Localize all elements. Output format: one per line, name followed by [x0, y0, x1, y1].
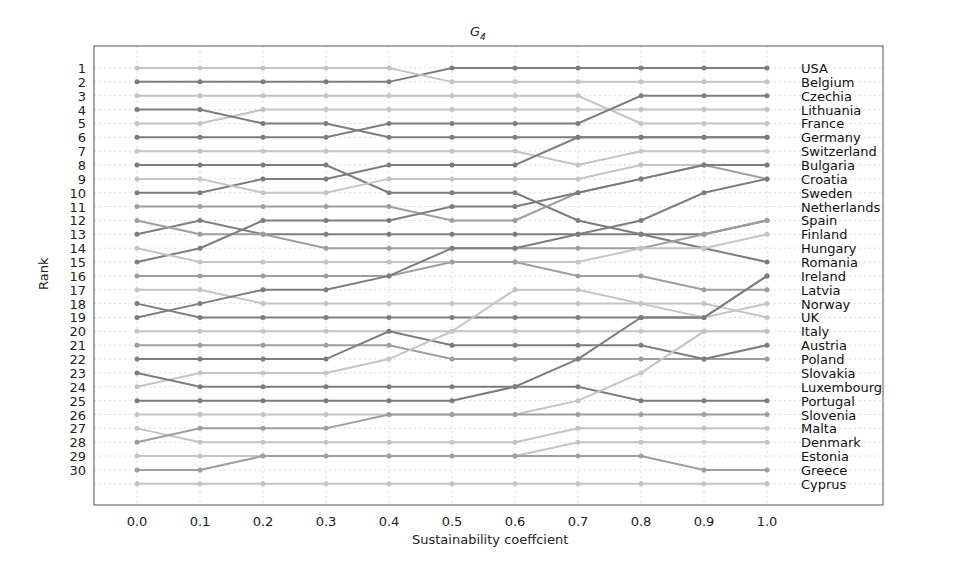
y-tick-label: 19 — [69, 310, 86, 325]
y-tick-label: 28 — [69, 435, 86, 450]
y-tick-label: 1 — [78, 61, 86, 76]
country-label: Poland — [801, 352, 844, 367]
y-tick-label: 27 — [69, 421, 86, 436]
country-label: Slovenia — [801, 408, 856, 423]
country-label: Portugal — [801, 394, 855, 409]
y-tick-label: 26 — [69, 408, 86, 423]
y-tick-label: 22 — [69, 352, 86, 367]
country-label: Lithuania — [801, 103, 861, 118]
y-tick-label: 20 — [69, 324, 86, 339]
country-label: Romania — [801, 255, 858, 270]
y-tick-label: 17 — [69, 283, 86, 298]
x-tick-label: 0.3 — [316, 514, 337, 529]
country-label: Finland — [801, 227, 847, 242]
y-tick-label: 11 — [69, 200, 86, 215]
country-label: Slovakia — [801, 366, 856, 381]
y-tick-label: 23 — [69, 366, 86, 381]
y-tick-label: 10 — [69, 186, 86, 201]
y-tick-label: 7 — [78, 144, 86, 159]
y-tick-label: 13 — [69, 227, 86, 242]
x-tick-label: 0.9 — [694, 514, 715, 529]
country-label: Luxembourg — [801, 380, 882, 395]
y-tick-label: 30 — [69, 463, 86, 478]
x-tick-label: 0.2 — [253, 514, 274, 529]
x-tick-label: 0.7 — [568, 514, 589, 529]
country-label: Czechia — [801, 89, 852, 104]
x-tick-label: 0.6 — [505, 514, 526, 529]
country-label: Estonia — [801, 449, 849, 464]
x-tick-label: 0.5 — [442, 514, 463, 529]
country-label: Spain — [801, 213, 837, 228]
y-tick-label: 25 — [69, 394, 86, 409]
country-label: Cyprus — [801, 477, 847, 492]
y-tick-label: 14 — [69, 241, 86, 256]
y-tick-label: 4 — [78, 103, 86, 118]
y-tick-label: 15 — [69, 255, 86, 270]
country-label: Sweden — [801, 186, 852, 201]
country-label: Germany — [801, 130, 861, 145]
country-label: UK — [801, 310, 820, 325]
country-label: Netherlands — [801, 200, 880, 215]
x-axis-ticks: 0.00.10.20.30.40.50.60.70.80.91.0 — [127, 514, 778, 529]
y-tick-label: 8 — [78, 158, 86, 173]
country-label: Austria — [801, 338, 847, 353]
chart-title: G4 — [470, 24, 486, 42]
y-tick-label: 21 — [69, 338, 86, 353]
series-line — [135, 481, 770, 486]
y-tick-label: 9 — [78, 172, 86, 187]
x-tick-label: 1.0 — [757, 514, 778, 529]
y-tick-label: 29 — [69, 449, 86, 464]
y-tick-label: 2 — [78, 75, 86, 90]
y-tick-label: 5 — [78, 116, 86, 131]
country-label: Hungary — [801, 241, 857, 256]
y-tick-label: 12 — [69, 213, 86, 228]
bump-chart: 1234567891011121314151617181920212223242… — [0, 0, 958, 573]
y-tick-label: 16 — [69, 269, 86, 284]
country-label: Switzerland — [801, 144, 877, 159]
x-tick-label: 0.8 — [631, 514, 652, 529]
country-label: Norway — [801, 297, 851, 312]
country-label: Malta — [801, 421, 837, 436]
country-label: Belgium — [801, 75, 854, 90]
y-tick-label: 18 — [69, 297, 86, 312]
country-label: Greece — [801, 463, 847, 478]
country-label: Latvia — [801, 283, 841, 298]
x-tick-label: 0.4 — [379, 514, 400, 529]
y-axis-label: Rank — [36, 258, 51, 290]
x-tick-label: 0.1 — [190, 514, 211, 529]
country-label: France — [801, 116, 844, 131]
x-tick-label: 0.0 — [127, 514, 148, 529]
country-label: Croatia — [801, 172, 848, 187]
x-axis-label: Sustainability coeffcient — [412, 532, 568, 547]
country-label: Bulgaria — [801, 158, 855, 173]
y-tick-label: 6 — [78, 130, 86, 145]
country-label: Denmark — [801, 435, 861, 450]
country-label: Ireland — [801, 269, 846, 284]
y-tick-label: 3 — [78, 89, 86, 104]
y-axis-ticks: 1234567891011121314151617181920212223242… — [69, 61, 86, 478]
y-tick-label: 24 — [69, 380, 86, 395]
country-label: Italy — [801, 324, 830, 339]
country-label: USA — [801, 61, 828, 76]
